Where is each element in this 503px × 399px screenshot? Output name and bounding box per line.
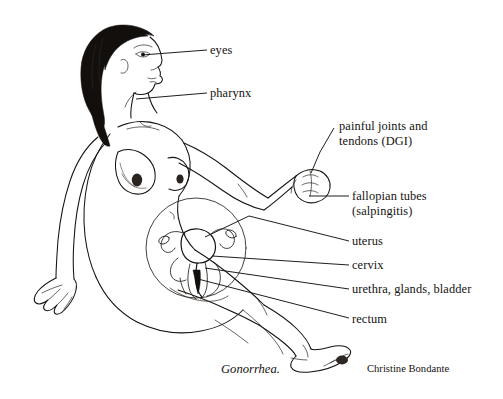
label-uterus: uterus xyxy=(352,234,383,249)
nipple-far xyxy=(176,174,183,183)
label-pharynx: pharynx xyxy=(210,86,251,101)
label-fallopian-line1: fallopian tubes xyxy=(352,189,427,204)
figure-background xyxy=(0,0,503,399)
illustration-canvas: .ln{fill:none;stroke:#15120f;stroke-widt… xyxy=(0,0,503,399)
label-rectum: rectum xyxy=(352,312,387,327)
label-eyes: eyes xyxy=(210,43,232,58)
label-dgi-line1: painful joints and xyxy=(339,119,428,134)
label-dgi-line2: tendons (DGI) xyxy=(339,134,412,149)
figure-caption-title: Gonorrhea. xyxy=(221,362,280,377)
label-urethra-glands-bladder: urethra, glands, bladder xyxy=(352,282,471,297)
figure-artist-credit: Christine Bondante xyxy=(367,363,449,374)
toe-shade xyxy=(336,356,348,365)
nipple-near xyxy=(132,174,142,187)
gonorrhea-figure: .ln{fill:none;stroke:#15120f;stroke-widt… xyxy=(0,0,503,399)
label-cervix: cervix xyxy=(352,258,384,273)
label-fallopian-line2: (salpingitis) xyxy=(352,204,413,219)
